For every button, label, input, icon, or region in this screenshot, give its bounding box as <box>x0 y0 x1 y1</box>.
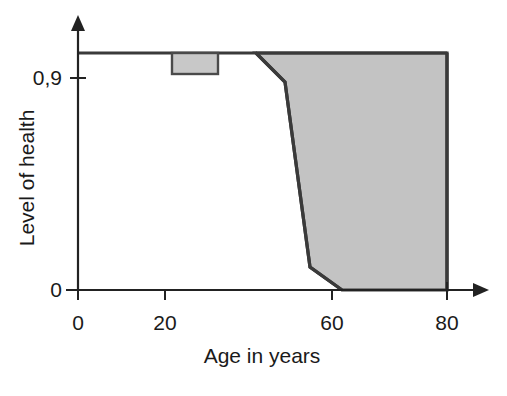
x-tick-label-60: 60 <box>320 311 343 334</box>
y-tick-label-0: 0 <box>50 278 62 301</box>
highlight-box <box>172 53 218 74</box>
x-tick-label-0: 0 <box>72 311 84 334</box>
x-tick-label-80: 80 <box>435 311 458 334</box>
chart-figure: 0,9 0 0 20 60 80 Level of health Age in … <box>0 0 507 396</box>
x-axis-title: Age in years <box>204 344 321 367</box>
x-tick-label-20: 20 <box>153 311 176 334</box>
y-tick-label-0-9: 0,9 <box>33 66 62 89</box>
chart-canvas: 0,9 0 0 20 60 80 Level of health Age in … <box>0 0 507 396</box>
y-axis-title: Level of health <box>15 110 38 247</box>
